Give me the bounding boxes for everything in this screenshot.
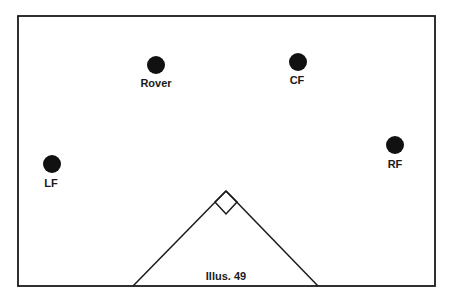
caption: Illus. 49 xyxy=(206,270,246,282)
player-marker-cf xyxy=(289,53,307,71)
player-label-rf: RF xyxy=(388,158,403,170)
second-base xyxy=(215,191,237,214)
player-label-lf: LF xyxy=(44,177,58,189)
player-label-rover: Rover xyxy=(140,77,172,89)
player-label-cf: CF xyxy=(290,74,305,86)
player-marker-lf xyxy=(43,155,61,173)
field-diagram: Rover CF LF RF Illus. 49 xyxy=(0,0,450,305)
field-border xyxy=(18,16,435,286)
player-marker-rover xyxy=(147,56,165,74)
player-marker-rf xyxy=(386,136,404,154)
